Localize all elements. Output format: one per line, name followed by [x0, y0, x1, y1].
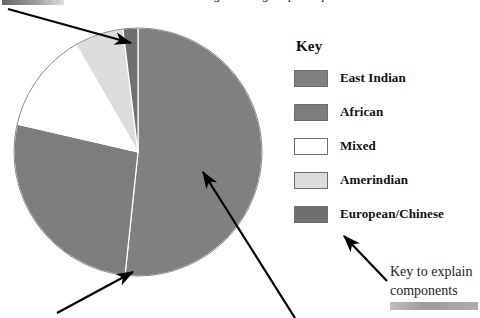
- legend-items: East IndianAfricanMixedAmerindianEuropea…: [294, 69, 480, 223]
- annotation-note-line-1: Key to explain: [390, 262, 480, 281]
- legend-item-label: African: [340, 104, 383, 120]
- figure-root: Pie chart showing ethnic group compositi…: [0, 0, 480, 318]
- swatch-mixed: [294, 138, 328, 155]
- legend-item: Mixed: [294, 137, 480, 155]
- pie-slice-east-indian: [125, 28, 262, 276]
- legend-item: African: [294, 103, 480, 121]
- annotation-note-line-2: components: [390, 281, 480, 300]
- swatch-european-chinese: [294, 206, 328, 223]
- annotation-key-note: Key to explain components: [390, 262, 480, 300]
- legend-item-label: East Indian: [340, 70, 406, 86]
- legend-item: Amerindian: [294, 171, 480, 189]
- legend-heading: Key: [296, 38, 480, 55]
- legend-item: East Indian: [294, 69, 480, 87]
- legend-item-label: European/Chinese: [340, 206, 444, 222]
- legend-item-label: Mixed: [340, 138, 376, 154]
- pie-slices: [14, 28, 262, 276]
- legend-item: European/Chinese: [294, 205, 480, 223]
- swatch-east-indian: [294, 70, 328, 87]
- legend-item-label: Amerindian: [340, 172, 408, 188]
- legend: Key East IndianAfricanMixedAmerindianEur…: [294, 38, 480, 239]
- swatch-african: [294, 104, 328, 121]
- swatch-amerindian: [294, 172, 328, 189]
